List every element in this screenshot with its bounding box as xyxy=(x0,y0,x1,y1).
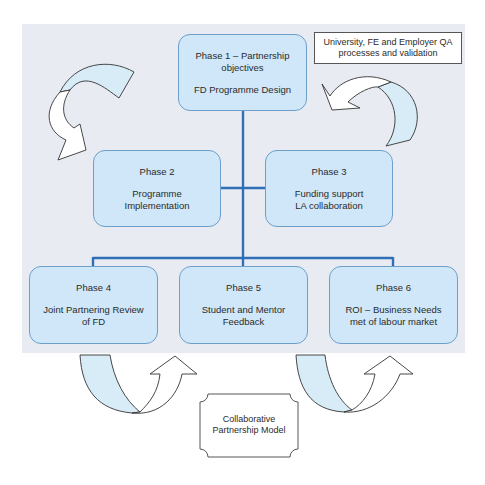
phase-5-title: Phase 5 xyxy=(226,282,261,294)
curved-arrow-top-left-icon xyxy=(49,64,134,160)
phase-2-description: Programme Implementation xyxy=(125,188,190,212)
phase-1-title: Phase 1 – Partnership objectives xyxy=(195,50,289,74)
model-label: Collaborative Partnership Model xyxy=(205,400,293,450)
phase-3-description: Funding support LA collaboration xyxy=(295,188,364,212)
phase-6-title: Phase 6 xyxy=(376,282,411,294)
phase-4-box: Phase 4 Joint Partnering Review of FD xyxy=(29,266,158,344)
phase-6-box: Phase 6 ROI – Business Needs met of labo… xyxy=(329,266,458,344)
uturn-arrow-bottom-right-icon xyxy=(296,355,413,412)
phase-2-box: Phase 2 Programme Implementation xyxy=(93,150,221,227)
curved-arrow-top-right-icon xyxy=(322,77,417,146)
phase-5-description: Student and Mentor Feedback xyxy=(202,304,285,328)
phase-1-description: FD Programme Design xyxy=(194,84,291,96)
uturn-arrow-bottom-left-icon xyxy=(80,355,197,413)
phase-4-description: Joint Partnering Review of FD xyxy=(43,304,143,328)
qa-validation-note: University, FE and Employer QA processes… xyxy=(314,32,462,64)
phase-1-box: Phase 1 – Partnership objectives FD Prog… xyxy=(178,34,307,111)
phase-3-box: Phase 3 Funding support LA collaboration xyxy=(265,150,393,227)
phase-6-description: ROI – Business Needs met of labour marke… xyxy=(345,304,441,328)
phase-5-box: Phase 5 Student and Mentor Feedback xyxy=(179,266,308,344)
phase-4-title: Phase 4 xyxy=(76,282,111,294)
phase-2-title: Phase 2 xyxy=(140,166,175,178)
phase-3-title: Phase 3 xyxy=(312,166,347,178)
